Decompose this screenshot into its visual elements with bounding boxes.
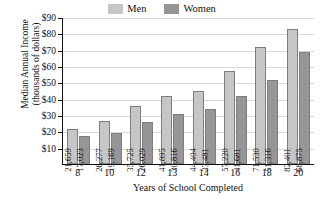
bar-group: 71,53051,316 — [255, 18, 278, 164]
bar-group: 57,22041,681 — [224, 18, 247, 164]
y-axis-title: Median Annual Income (thousands of dolla… — [19, 2, 43, 126]
legend-item-men: Men — [108, 4, 146, 14]
y-axis-tick-label: $80 — [42, 29, 56, 39]
x-axis-tick-label-18: 18 — [254, 167, 279, 180]
bar-women-14[interactable]: 33,481 — [205, 109, 216, 164]
bar-men-18[interactable]: 71,530 — [255, 47, 266, 164]
x-axis-tick-label-16: 16 — [223, 167, 248, 180]
y-axis-title-line2: (thousands of dollars) — [31, 23, 42, 106]
x-axis-tick-label-14: 14 — [191, 167, 216, 180]
x-axis-tick-label-12: 12 — [128, 167, 153, 180]
bar-group: 26,27719,169 — [99, 18, 122, 164]
bar-women-13[interactable]: 30,816 — [173, 114, 184, 164]
bar-group: 44,40433,481 — [193, 18, 216, 164]
bar-groups: 21,65917,02326,27719,16935,72526,02941,8… — [63, 18, 314, 164]
y-axis-tick-label: $30 — [42, 111, 56, 121]
y-axis-title-line1: Median Annual Income — [20, 19, 31, 109]
bar-women-12[interactable]: 26,029 — [142, 122, 153, 165]
legend-item-women: Women — [164, 4, 215, 14]
y-axis-tick-label: $60 — [42, 62, 56, 72]
x-axis-tick-labels: 810121314161820 — [62, 167, 314, 180]
y-axis-tick-label: $10 — [42, 144, 56, 154]
y-axis-tick-label: $90 — [42, 13, 56, 23]
legend-swatch-men — [108, 4, 123, 14]
x-axis-tick-label-13: 13 — [160, 167, 185, 180]
x-axis-tick-label-8: 8 — [65, 167, 90, 180]
bar-women-16[interactable]: 41,681 — [236, 96, 247, 164]
y-axis-tick-label: $40 — [42, 95, 56, 105]
y-axis-tick-label: $50 — [42, 78, 56, 88]
bar-women-8[interactable]: 17,023 — [79, 136, 90, 164]
bar-group: 41,89530,816 — [161, 18, 184, 164]
legend-label-women: Women — [183, 4, 215, 14]
x-axis-title: Years of School Completed — [62, 182, 314, 194]
plot-area: $10$20$30$40$50$60$70$80$90 21,65917,023… — [62, 18, 314, 165]
x-axis-tick-label-20: 20 — [286, 167, 311, 180]
bar-chart: Men Women Median Annual Income (thousand… — [0, 0, 324, 201]
legend-swatch-women — [164, 4, 179, 14]
y-axis-tick-label: $70 — [42, 46, 56, 56]
bar-group: 82,40168,875 — [287, 18, 310, 164]
bar-men-20[interactable]: 82,401 — [287, 29, 298, 164]
bar-women-18[interactable]: 51,316 — [267, 80, 278, 164]
x-axis-tick-label-10: 10 — [97, 167, 122, 180]
y-axis-tick-label: $20 — [42, 127, 56, 137]
legend-label-men: Men — [127, 4, 146, 14]
bar-group: 35,72526,029 — [130, 18, 153, 164]
bar-women-10[interactable]: 19,169 — [111, 133, 122, 164]
bar-group: 21,65917,023 — [67, 18, 90, 164]
bar-women-20[interactable]: 68,875 — [299, 52, 310, 164]
